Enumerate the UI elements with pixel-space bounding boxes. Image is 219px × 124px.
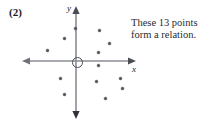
data-point [59,77,62,80]
data-point [97,64,100,67]
data-point [108,42,111,45]
origin-marker-icon [72,57,83,68]
data-point [119,77,122,80]
data-point [121,87,124,90]
coordinate-plane: y x [0,0,150,124]
data-point [98,29,101,32]
caption-line-1: These 13 points [131,17,217,29]
data-point [63,93,66,96]
y-axis-bottom-arrowhead [72,111,79,119]
x-axis-label: x [132,64,136,74]
caption-line-2: form a relation. [131,29,217,41]
relation-figure: (2) y x These 13 points form a relation. [0,0,219,124]
data-point [63,37,66,40]
x-axis-left-arrowhead [22,57,30,64]
data-point [97,51,100,54]
y-axis-top-arrowhead [72,6,79,14]
y-axis-label: y [67,3,71,13]
caption-text: These 13 points form a relation. [131,17,217,41]
data-point [95,80,98,83]
data-point [104,97,107,100]
data-point [74,27,77,30]
data-point [46,49,49,52]
